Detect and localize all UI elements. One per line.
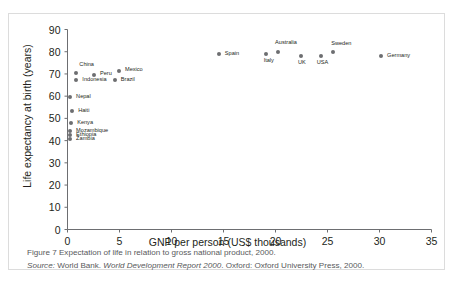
data-label-italy: Italy <box>264 58 274 64</box>
data-label-indonesia: Indonesia <box>82 77 106 83</box>
data-label-haiti: Haiti <box>78 108 89 114</box>
data-label-usa: USA <box>317 60 329 66</box>
data-label-brazil: Brazil <box>121 77 135 83</box>
data-point-italy <box>264 52 268 56</box>
data-label-nepal: Nepal <box>76 94 91 100</box>
data-point-uk <box>299 54 303 58</box>
caption-line-1: Figure 7 Expectation of life in relation… <box>27 246 432 259</box>
y-tick-label-80: 80 <box>39 47 61 58</box>
caption-figure-number: Figure 7 <box>27 248 57 257</box>
caption-source-imprint: . Oxford: Oxford University Press, 2000. <box>221 261 364 270</box>
data-point-peru <box>92 73 96 77</box>
y-axis-title: Life expectancy at birth (years) <box>21 36 33 196</box>
caption-line-2: Source: World Bank. World Development Re… <box>27 259 432 272</box>
data-label-zambia: Zambia <box>76 136 95 142</box>
data-label-spain: Spain <box>225 51 239 57</box>
chart-axes <box>9 14 446 239</box>
data-label-peru: Peru <box>100 71 112 77</box>
y-tick-label-20: 20 <box>39 180 61 191</box>
caption-source-publisher: World Bank. <box>57 261 101 270</box>
data-label-uk: UK <box>298 60 306 66</box>
y-tick-label-90: 90 <box>39 25 61 36</box>
data-point-kenya <box>69 121 73 125</box>
caption-source-label: Source: <box>27 261 55 270</box>
chart-plot-area: 0102030405060708090 05101520253035 China… <box>9 14 446 239</box>
y-tick-label-40: 40 <box>39 136 61 147</box>
data-label-australia: Australia <box>275 40 297 46</box>
data-label-germany: Germany <box>387 53 410 59</box>
caption-description: Expectation of life in relation to gross… <box>59 248 276 257</box>
data-label-kenya: Kenya <box>77 120 93 126</box>
y-tick-label-30: 30 <box>39 158 61 169</box>
data-point-germany <box>379 54 383 58</box>
y-tick-label-60: 60 <box>39 91 61 102</box>
caption-source-title: World Development Report 2000 <box>103 261 221 270</box>
data-point-brazil <box>113 78 117 82</box>
data-label-mexico: Mexico <box>125 67 143 73</box>
figure-caption: Figure 7 Expectation of life in relation… <box>27 246 432 272</box>
data-point-usa <box>319 54 323 58</box>
y-tick-label-70: 70 <box>39 69 61 80</box>
data-label-china: China <box>79 62 94 68</box>
y-tick-label-0: 0 <box>39 225 61 236</box>
y-tick-label-10: 10 <box>39 202 61 213</box>
y-tick-label-50: 50 <box>39 113 61 124</box>
figure-container: 0102030405060708090 05101520253035 China… <box>8 13 445 270</box>
data-label-sweden: Sweden <box>331 41 351 47</box>
data-point-sweden <box>331 50 335 54</box>
